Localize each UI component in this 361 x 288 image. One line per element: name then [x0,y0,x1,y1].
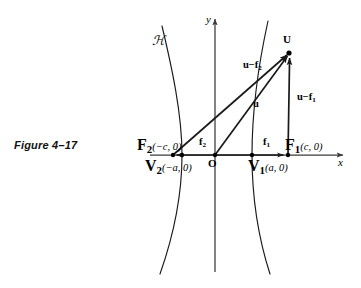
label-vector-f2-subscript: 2 [203,141,207,149]
label-vector-f1-subscript: 1 [267,141,271,149]
dot-point-u [286,50,291,55]
label-vector-u: u [253,99,259,110]
label-vertex-left-symbol: V [145,157,157,174]
y-axis-label: y [206,14,211,25]
label-focus-left-coord: (−c, 0) [152,141,181,152]
curve-label-h: ℋ [152,34,165,47]
label-vector-u-symbol: u [253,98,259,109]
label-vector-u-minus-f1: u−f1 [297,92,316,104]
label-focus-left-symbol: F [137,136,147,153]
label-vertex-right-coord: (a, 0) [265,162,288,173]
label-focus-left: F2(−c, 0) [137,137,181,155]
label-focus-right-symbol: F [285,136,295,153]
label-u-minus-f2-subscript: 2 [258,64,262,72]
origin-label: O [208,158,217,169]
label-vertex-left-coord: (−a, 0) [162,162,192,173]
x-axis-label: x [338,157,343,168]
label-focus-right: F1(c, 0) [285,137,322,155]
figure-page: Figure 4–17 [0,0,361,288]
label-point-u: U [283,34,291,45]
label-vector-f1: f1 [263,137,270,149]
label-focus-right-coord: (c, 0) [300,141,322,152]
label-u-minus-f1-subscript: 1 [312,96,316,104]
label-vector-f2: f2 [199,137,206,149]
label-vector-u-minus-f2: u−f2 [243,60,262,72]
label-vertex-right-symbol: V [248,157,260,174]
label-vertex-left: V2(−a, 0) [145,158,192,176]
label-vertex-right: V1(a, 0) [248,158,288,176]
